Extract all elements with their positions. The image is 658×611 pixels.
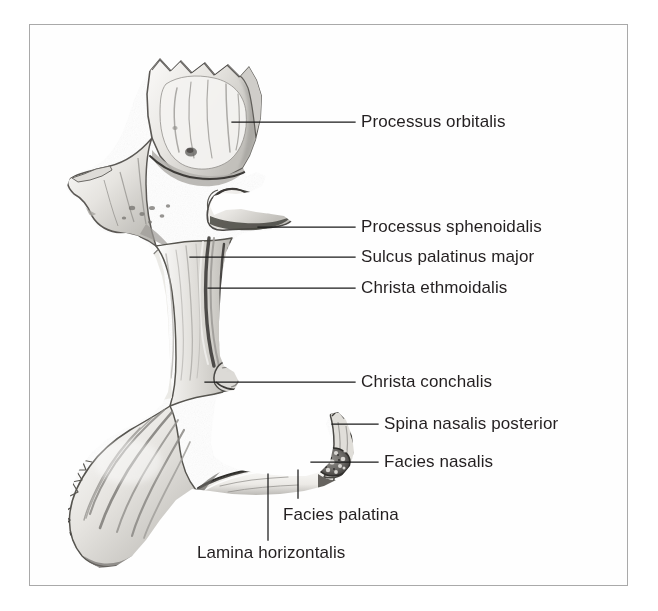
label-facies-palatina: Facies palatina [283,505,399,524]
label-sulcus-palatinus-major: Sulcus palatinus major [361,247,534,266]
anatomical-plate: Processus orbitalis Processus sphenoidal… [0,0,658,611]
label-lamina-horizontalis: Lamina horizontalis [197,543,345,562]
processus-sphenoidalis-shape [207,189,292,231]
label-facies-nasalis: Facies nasalis [384,452,493,471]
lamina-horizontalis-shape [196,465,334,504]
label-spina-nasalis-posterior: Spina nasalis posterior [384,414,558,433]
label-processus-sphenoidalis: Processus sphenoidalis [361,217,542,236]
pyramidal-wing-shape [62,406,196,570]
facies-nasalis-shape [316,447,350,490]
christa-conchalis-shape [214,361,245,392]
lamina-perpendicularis-shape [148,238,245,406]
label-processus-orbitalis: Processus orbitalis [361,112,506,131]
label-christa-ethmoidalis: Christa ethmoidalis [361,278,507,297]
label-christa-conchalis: Christa conchalis [361,372,492,391]
